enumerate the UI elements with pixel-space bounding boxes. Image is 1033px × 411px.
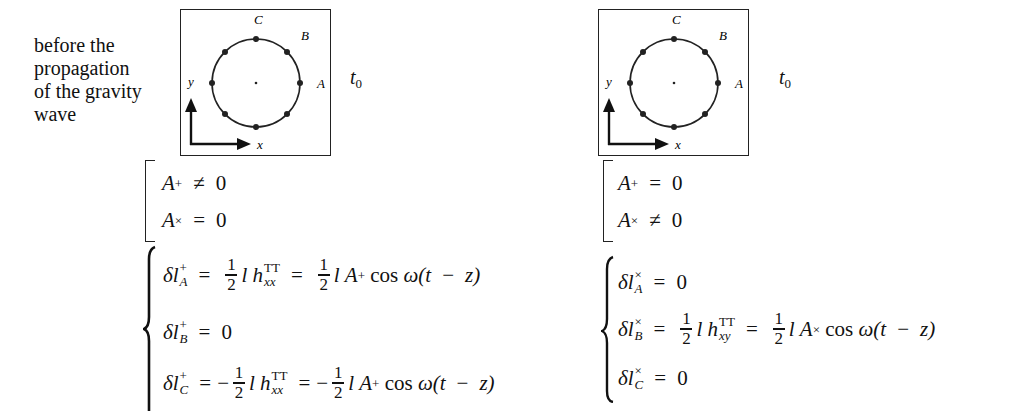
sub: C xyxy=(635,378,644,392)
z: z) xyxy=(479,373,494,394)
cos: cos xyxy=(385,373,413,394)
amplitude: A xyxy=(800,319,813,340)
equals: = xyxy=(654,368,666,389)
polarization-sub: + xyxy=(175,177,182,190)
zero: 0 xyxy=(221,322,232,343)
sub: B xyxy=(180,332,188,346)
sup-TT: TT xyxy=(272,369,288,383)
amplitude: A xyxy=(359,373,372,394)
minus: − xyxy=(897,319,909,340)
amplitude: A xyxy=(345,265,358,286)
h: h xyxy=(253,265,264,286)
sub: B xyxy=(635,329,643,343)
equals: = xyxy=(291,265,303,286)
sub: C xyxy=(180,383,189,397)
sub-xx: xx xyxy=(264,275,280,289)
caption-line: before the xyxy=(34,34,142,57)
cos: cos xyxy=(370,265,398,286)
time-label: t0 xyxy=(350,66,362,92)
value: 0 xyxy=(672,173,683,194)
ring-diagram-cross: C B A y x xyxy=(598,9,749,156)
fraction-half: 12 xyxy=(773,310,785,347)
sub: A xyxy=(635,282,643,296)
delta-l: δl xyxy=(618,319,634,340)
relation: = xyxy=(193,210,205,231)
omega: ω( xyxy=(418,373,440,394)
sup-TT: TT xyxy=(719,315,735,329)
sub-times: × xyxy=(813,323,820,336)
t: t xyxy=(440,373,446,394)
equals: = xyxy=(654,319,666,340)
sup: + xyxy=(180,261,188,275)
sup: + xyxy=(180,318,188,332)
sup-TT: TT xyxy=(264,261,280,275)
h: h xyxy=(708,319,719,340)
equals: = xyxy=(199,265,211,286)
sup: + xyxy=(180,369,189,383)
value: 0 xyxy=(216,173,227,194)
caption-line: propagation xyxy=(34,57,142,80)
relation: = xyxy=(649,173,661,194)
label-B: B xyxy=(301,28,309,43)
sub-xx: xx xyxy=(272,383,288,397)
time-label: t0 xyxy=(779,66,791,92)
value: 0 xyxy=(216,210,227,231)
sub-plus: + xyxy=(372,377,379,390)
label-A: A xyxy=(316,76,325,91)
relation: ≠ xyxy=(193,173,205,194)
length-l: l xyxy=(249,373,255,394)
condition-row: A× ≠ 0 xyxy=(618,200,682,240)
equals: = xyxy=(199,373,211,394)
length-l: l xyxy=(348,373,354,394)
zero: 0 xyxy=(676,272,687,293)
z: z) xyxy=(920,319,935,340)
cos: cos xyxy=(825,319,853,340)
conditions-bracket xyxy=(145,160,155,242)
equals: = xyxy=(746,319,758,340)
relation: ≠ xyxy=(649,210,661,231)
sub: A xyxy=(180,275,188,289)
length-l: l xyxy=(241,265,247,286)
minus: − xyxy=(316,373,328,394)
condition-row: A× = 0 xyxy=(162,200,227,240)
delta-l: δl xyxy=(163,373,179,394)
axis-label-y: y xyxy=(186,74,194,89)
equals: = xyxy=(654,272,666,293)
sup: × xyxy=(635,364,644,378)
amplitude-var: A xyxy=(162,173,175,194)
axis-label-x: x xyxy=(256,137,263,152)
polarization-sub: × xyxy=(175,214,182,227)
sub-plus: + xyxy=(358,269,365,282)
left-brace-icon xyxy=(143,245,159,411)
polarization-sub: + xyxy=(631,177,638,190)
equation-row-A: δl ×A = 0 xyxy=(618,262,687,302)
minus: − xyxy=(457,373,469,394)
amplitude-var: A xyxy=(162,210,175,231)
omega: ω( xyxy=(404,265,426,286)
axis-label-y: y xyxy=(604,74,612,89)
label-A: A xyxy=(734,76,743,91)
time-sub: 0 xyxy=(785,76,792,91)
label-C: C xyxy=(672,12,681,27)
figure-caption: before the propagation of the gravity wa… xyxy=(34,34,142,126)
caption-line: wave xyxy=(34,103,142,126)
fraction-half: 12 xyxy=(680,310,692,347)
delta-l: δl xyxy=(618,368,634,389)
equals: = xyxy=(199,322,211,343)
polarization-sub: × xyxy=(631,214,638,227)
value: 0 xyxy=(672,210,683,231)
delta-l: δl xyxy=(618,272,634,293)
minus: − xyxy=(217,373,229,394)
condition-row: A+ ≠ 0 xyxy=(162,163,226,203)
sub-xy: xy xyxy=(719,329,735,343)
equals: = xyxy=(298,373,310,394)
length-l: l xyxy=(334,265,340,286)
minus: − xyxy=(442,265,454,286)
caption-line: of the gravity xyxy=(34,80,142,103)
time-sub: 0 xyxy=(356,76,363,91)
length-l: l xyxy=(696,319,702,340)
equation-row-C: δl +C =− 12 l h TTxx =− 12 l A+ cos ω(t … xyxy=(163,363,495,403)
delta-l: δl xyxy=(163,265,179,286)
equation-row-C: δl ×C = 0 xyxy=(618,358,688,398)
fraction-half: 12 xyxy=(332,364,344,401)
